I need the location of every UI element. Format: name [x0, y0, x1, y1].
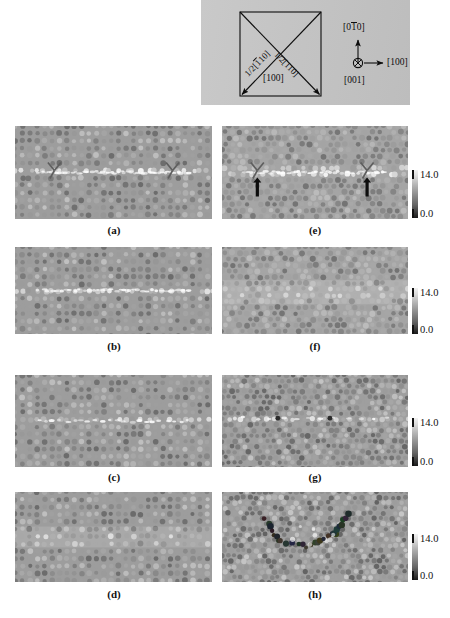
lattice-atom: [345, 159, 351, 165]
lattice-atom: [359, 570, 364, 575]
lattice-atom: [332, 543, 336, 547]
lattice-atom: [399, 501, 404, 506]
lattice-atom: [183, 311, 189, 317]
lattice-atom: [312, 166, 318, 172]
lattice-atom: [43, 549, 47, 553]
lattice-atom: [357, 379, 362, 384]
lattice-atom: [42, 326, 47, 331]
lattice-atom: [299, 511, 304, 516]
lattice-atom: [374, 450, 378, 454]
lattice-atom: [238, 263, 242, 267]
lattice-atom: [222, 569, 227, 574]
lattice-atom: [399, 554, 403, 558]
lattice-atom: [225, 405, 230, 410]
lattice-atom: [296, 305, 301, 310]
lattice-atom: [65, 381, 69, 385]
lattice-atom: [386, 427, 391, 432]
lattice-atom: [387, 565, 393, 571]
lattice-atom: [346, 196, 350, 200]
lattice-atom: [283, 384, 288, 389]
lattice-atom: [138, 326, 143, 331]
lattice-atom: [245, 438, 250, 443]
lattice-atom: [265, 406, 270, 411]
lattice-atom: [349, 522, 354, 527]
lattice-atom: [255, 455, 261, 461]
lattice-atom: [300, 178, 304, 182]
lattice-atom: [281, 166, 286, 171]
lattice-atom: [168, 497, 173, 502]
lattice-atom: [123, 160, 129, 166]
lattice-atom: [109, 252, 114, 257]
lattice-atom: [101, 318, 107, 324]
lattice-atom: [376, 433, 381, 438]
lattice-atom: [275, 256, 281, 262]
lattice-atom: [131, 304, 136, 309]
lattice-atom: [235, 378, 240, 383]
lattice-atom: [86, 570, 92, 576]
lattice-atom: [275, 195, 281, 201]
lattice-atom: [293, 390, 297, 394]
lattice-atom: [109, 259, 114, 264]
lattice-atom: [284, 569, 290, 575]
lattice-atom: [317, 208, 322, 213]
lattice-atom: [191, 410, 195, 414]
lattice-atom: [257, 522, 261, 526]
lattice-atom: [168, 403, 173, 408]
lattice-atom: [310, 208, 315, 213]
lattice-atom: [88, 176, 92, 180]
lattice-atom: [109, 161, 113, 165]
lattice-atom: [306, 454, 311, 459]
lattice-atom: [247, 569, 252, 574]
lattice-atom: [365, 495, 370, 500]
lattice-atom: [356, 142, 361, 147]
lattice-atom: [35, 282, 40, 287]
lattice-atom: [124, 432, 129, 437]
lattice-atom: [175, 425, 180, 430]
lattice-atom: [402, 433, 407, 438]
lattice-atom: [79, 505, 84, 510]
defect-core-highlight: [186, 289, 192, 292]
lattice-atom: [381, 135, 386, 140]
lattice-atom: [110, 205, 114, 209]
lattice-atom: [370, 178, 375, 183]
lattice-atom: [42, 380, 47, 385]
lattice-atom: [300, 553, 304, 557]
lattice-atom: [368, 532, 373, 537]
lattice-atom: [243, 251, 249, 257]
lattice-atom: [64, 556, 69, 561]
lattice-atom: [123, 146, 128, 151]
lattice-atom: [389, 433, 394, 438]
lattice-atom: [234, 209, 238, 213]
lattice-atom: [363, 142, 368, 147]
lattice-atom: [352, 318, 356, 322]
lattice-atom: [374, 406, 379, 411]
lattice-atom: [130, 461, 136, 467]
defect-core-highlight: [259, 172, 265, 174]
lattice-atom: [131, 190, 136, 195]
lattice-atom: [153, 296, 158, 301]
lattice-atom: [138, 519, 143, 524]
lattice-atom: [391, 311, 396, 316]
defect-core-highlight: [83, 290, 87, 292]
lattice-atom: [298, 549, 303, 554]
lattice-atom: [377, 505, 382, 510]
lattice-atom: [28, 190, 33, 195]
lattice-atom: [392, 384, 397, 389]
lattice-atom: [190, 212, 196, 218]
lattice-atom: [347, 406, 351, 410]
lattice-atom: [223, 423, 228, 428]
lattice-atom: [276, 449, 281, 454]
lattice-atom: [400, 543, 405, 548]
lattice-atom: [282, 532, 287, 537]
lattice-atom: [307, 130, 312, 135]
lattice-atom: [349, 190, 354, 195]
lattice-atom: [392, 262, 397, 267]
lattice-atom: [79, 190, 85, 196]
lattice-atom: [138, 311, 143, 316]
lattice-atom: [362, 575, 366, 579]
lattice-atom: [130, 402, 135, 407]
lattice-atom: [282, 554, 286, 558]
lattice-atom: [391, 537, 396, 542]
lattice-atom: [138, 197, 144, 203]
lattice-atom: [326, 444, 330, 448]
